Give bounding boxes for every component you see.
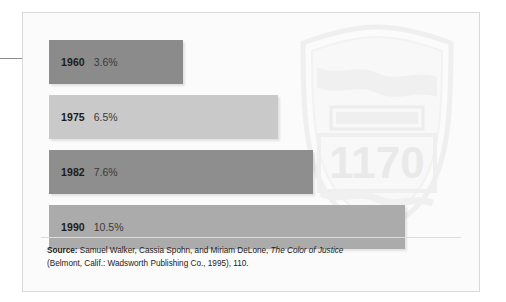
bar-label-1975: 19756.5% <box>61 95 118 139</box>
source-line-2: (Belmont, Calif.: Wadsworth Publishing C… <box>47 258 457 271</box>
bar-row: 19756.5% <box>49 95 278 139</box>
bar-value-label: 10.5% <box>94 221 124 233</box>
bar-year-label: 1960 <box>61 56 85 68</box>
bar-row: 19827.6% <box>49 150 313 194</box>
bar-year-label: 1990 <box>61 221 85 233</box>
source-line-1: Source: Samuel Walker, Cassia Spohn, and… <box>47 245 457 258</box>
bar-year-label: 1975 <box>61 111 85 123</box>
chart-frame: 1170 19603.6% 19756.5% 19827.6% <box>22 12 480 292</box>
source-divider <box>41 237 461 238</box>
left-edge-rule <box>0 58 24 59</box>
figure-root: 1170 19603.6% 19756.5% 19827.6% <box>0 0 506 302</box>
bar-label-1990: 199010.5% <box>61 205 124 249</box>
bar-year-label: 1982 <box>61 166 85 178</box>
bar-label-1982: 19827.6% <box>61 150 118 194</box>
bar-value-label: 6.5% <box>94 111 118 123</box>
bar-label-1960: 19603.6% <box>61 40 118 84</box>
bar-value-label: 3.6% <box>94 56 118 68</box>
bar-row: 199010.5% <box>49 205 405 249</box>
source-book-title: The Color of Justice <box>271 246 344 255</box>
bar-row: 19603.6% <box>49 40 183 84</box>
source-lead-label: Source: <box>47 246 77 255</box>
bar-value-label: 7.6% <box>94 166 118 178</box>
source-citation: Source: Samuel Walker, Cassia Spohn, and… <box>47 245 457 270</box>
source-authors: Samuel Walker, Cassia Spohn, and Miriam … <box>77 246 270 255</box>
